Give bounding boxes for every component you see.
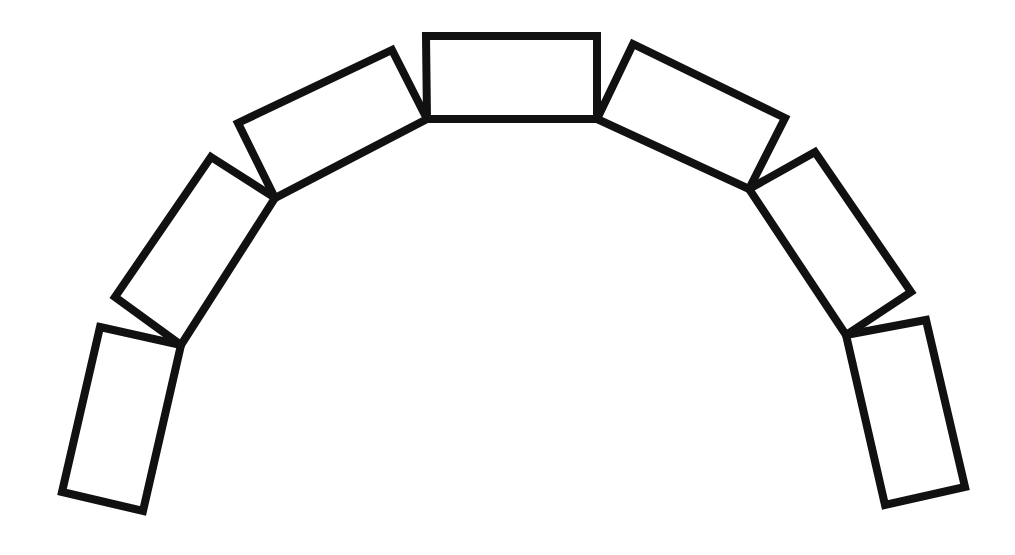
arch-block-1 bbox=[62, 327, 181, 511]
arch-block-3 bbox=[238, 50, 427, 198]
arch-block-6 bbox=[749, 152, 911, 335]
arch-block-2 bbox=[115, 157, 275, 345]
arch-diagram bbox=[0, 0, 1015, 555]
arch-block-7 bbox=[846, 320, 965, 505]
arch-diagram-svg bbox=[0, 0, 1015, 555]
arch-block-keystone bbox=[426, 36, 597, 119]
arch-block-5 bbox=[597, 44, 785, 189]
